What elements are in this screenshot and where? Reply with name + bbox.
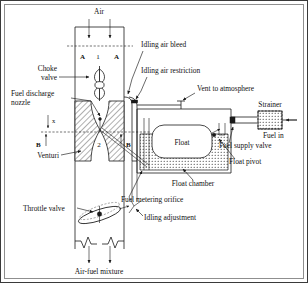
leader-throttle-valve <box>77 208 93 212</box>
label-air-fuel-mixture: Air-fuel mixture <box>75 267 124 276</box>
label-float-pivot: Float pivot <box>229 157 262 166</box>
label-air: Air <box>94 7 104 16</box>
label-idling-adjustment: Idling adjustment <box>144 213 197 222</box>
label-choke-valve: Choke <box>38 64 58 73</box>
carburetor-diagram: Air A 1 A Choke valve Venturi <box>1 1 308 283</box>
label-venturi: Venturi <box>37 151 59 160</box>
figure-frame: Air A 1 A Choke valve Venturi <box>0 0 308 283</box>
leader-vent-to-atmosphere <box>183 93 195 100</box>
label-idling-air-restriction: Idling air restriction <box>141 66 200 75</box>
section-line-a: A 1 A <box>67 46 133 61</box>
leader-idling-adjustment <box>136 209 143 216</box>
leader-fuel-metering-orifice <box>129 171 142 197</box>
idling-passage <box>124 97 138 161</box>
air-fuel-mixture-arrows <box>89 246 110 263</box>
throttle-valve <box>77 199 122 227</box>
label-vent-to-atmosphere: Vent to atmosphere <box>197 84 255 93</box>
label-float-chamber: Float chamber <box>172 179 215 188</box>
strainer <box>258 111 297 129</box>
label-dimension-x: x <box>52 117 56 124</box>
vent-to-atmosphere <box>137 101 185 109</box>
label-fuel-in: Fuel in <box>263 131 284 140</box>
section-mark-a-right: A <box>114 53 119 61</box>
label-choke-valve-line2: valve <box>41 73 58 82</box>
dimension-x: x <box>48 115 56 128</box>
leader-idling-air-restriction <box>136 77 147 99</box>
idling-adjustment <box>119 161 141 213</box>
label-fuel-discharge-nozzle: Fuel discharge <box>11 89 55 98</box>
air-inlet-arrows <box>89 19 110 38</box>
section-number-2: 2 <box>97 141 101 149</box>
label-idling-air-bleed: Idling air bleed <box>141 40 186 49</box>
label-throttle-valve: Throttle valve <box>23 204 65 213</box>
choke-valve <box>94 66 104 101</box>
section-number-1: 1 <box>96 53 100 61</box>
fuel-supply-line <box>219 117 257 135</box>
section-mark-a-left: A <box>80 53 85 61</box>
label-float: Float <box>174 138 190 147</box>
section-mark-b-left: B <box>36 141 41 149</box>
venturi-throat <box>75 101 124 161</box>
label-strainer: Strainer <box>258 100 282 109</box>
label-fuel-discharge-nozzle-line2: nozzle <box>11 98 31 107</box>
duct-break <box>75 237 124 248</box>
